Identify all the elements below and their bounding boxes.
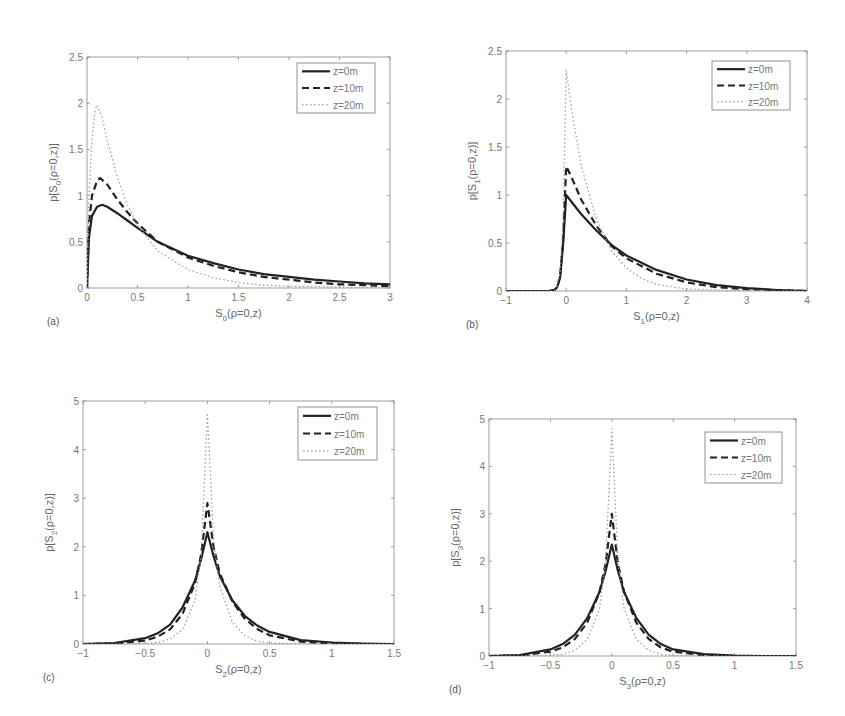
x-tick-label: 2.5 <box>333 292 347 303</box>
y-tick-label: 3 <box>479 509 485 520</box>
y-tick-label: 0 <box>496 286 502 297</box>
subplot-c: −1−0.500.511.5012345z=0mz=10mz=20mS2(ρ=0… <box>43 396 401 683</box>
x-tick-label: 0.5 <box>263 648 277 659</box>
y-axis-label: p[S0(ρ=0,z)] <box>47 143 63 202</box>
y-tick-label: 0.5 <box>488 238 502 249</box>
subplot-a: 00.511.522.5300.511.522.5z=0mz=10mz=20mS… <box>47 52 393 327</box>
x-tick-label: 4 <box>804 295 810 306</box>
x-tick-label: −0.5 <box>135 648 155 659</box>
legend-label: z=10m <box>333 83 363 94</box>
panel-label: (c) <box>43 672 55 683</box>
legend-label: z=20m <box>741 470 771 481</box>
legend-label: z=20m <box>748 97 778 108</box>
legend: z=0mz=10mz=20m <box>705 432 782 483</box>
x-tick-label: 0.5 <box>131 292 145 303</box>
x-tick-label: 1.5 <box>232 292 246 303</box>
y-tick-label: 0 <box>479 651 485 662</box>
y-tick-label: 5 <box>73 396 79 407</box>
x-axis-label: S1(ρ=0,z) <box>633 310 679 326</box>
y-tick-label: 1.5 <box>69 144 83 155</box>
x-tick-label: 3 <box>744 295 750 306</box>
y-tick-label: 4 <box>73 445 79 456</box>
x-tick-label: 1 <box>329 648 335 659</box>
x-tick-label: 2 <box>684 295 690 306</box>
x-tick-label: −1 <box>500 295 512 306</box>
x-tick-label: 0 <box>205 648 211 659</box>
legend-label: z=10m <box>334 429 364 440</box>
y-tick-label: 1 <box>479 604 485 615</box>
legend-label: z=0m <box>748 64 773 75</box>
panel-label: (d) <box>449 684 461 695</box>
y-axis-label: p[S2(ρ=0,z)] <box>43 493 59 552</box>
legend-label: z=20m <box>333 100 363 111</box>
y-tick-label: 1 <box>496 190 502 201</box>
legend: z=0mz=10mz=20m <box>298 407 377 460</box>
y-axis-label: p[S3(ρ=0,z)] <box>449 508 465 567</box>
x-axis-label: S3(ρ=0,z) <box>619 675 665 691</box>
x-tick-label: 1.5 <box>789 660 803 671</box>
y-tick-label: 2.5 <box>69 52 83 63</box>
y-tick-label: 1 <box>77 191 83 202</box>
y-tick-label: 2 <box>73 542 79 553</box>
legend-label: z=0m <box>333 66 358 77</box>
legend-label: z=10m <box>748 81 778 92</box>
legend-label: z=20m <box>334 446 364 457</box>
y-tick-label: 0 <box>77 283 83 294</box>
y-tick-label: 0 <box>73 639 79 650</box>
x-tick-label: 3 <box>387 292 393 303</box>
x-tick-label: −0.5 <box>541 660 561 671</box>
y-tick-label: 1.5 <box>488 142 502 153</box>
x-tick-label: 0 <box>563 295 569 306</box>
y-tick-label: 0.5 <box>69 237 83 248</box>
legend: z=0mz=10mz=20m <box>712 61 790 110</box>
legend-label: z=0m <box>741 436 766 447</box>
x-tick-label: 0 <box>609 660 615 671</box>
x-tick-label: 1.5 <box>387 648 401 659</box>
y-axis-label: p[S1(ρ=0,z)] <box>466 142 482 201</box>
x-tick-label: 1 <box>185 292 191 303</box>
x-tick-label: −1 <box>483 660 495 671</box>
y-tick-label: 2 <box>77 98 83 109</box>
y-tick-label: 3 <box>73 493 79 504</box>
subplot-b: −10123400.511.522.5z=0mz=10mz=20mS1(ρ=0,… <box>466 46 810 330</box>
x-tick-label: 1 <box>732 660 738 671</box>
x-tick-label: 0 <box>84 292 90 303</box>
x-tick-label: 1 <box>624 295 630 306</box>
x-tick-label: 2 <box>286 292 292 303</box>
x-axis-label: S2(ρ=0,z) <box>215 663 261 679</box>
legend-label: z=10m <box>741 453 771 464</box>
y-tick-label: 1 <box>73 590 79 601</box>
y-tick-label: 5 <box>479 414 485 425</box>
x-axis-label: S0(ρ=0,z) <box>215 307 261 323</box>
x-tick-label: −1 <box>77 648 89 659</box>
y-tick-label: 4 <box>479 461 485 472</box>
figure-canvas: 00.511.522.5300.511.522.5z=0mz=10mz=20mS… <box>0 0 845 716</box>
legend-label: z=0m <box>334 411 359 422</box>
subplot-d: −1−0.500.511.5012345z=0mz=10mz=20mS3(ρ=0… <box>449 414 803 695</box>
y-tick-label: 2.5 <box>488 46 502 57</box>
y-tick-label: 2 <box>496 94 502 105</box>
x-tick-label: 0.5 <box>666 660 680 671</box>
panel-label: (a) <box>47 316 59 327</box>
legend: z=0mz=10mz=20m <box>297 63 375 113</box>
panel-label: (b) <box>466 319 478 330</box>
y-tick-label: 2 <box>479 556 485 567</box>
